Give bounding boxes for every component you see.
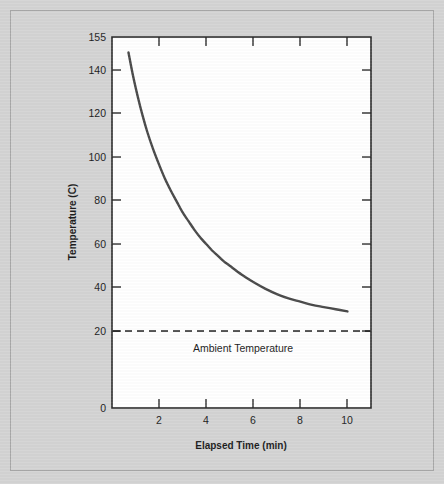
y-tick-label-80: 80 xyxy=(94,194,106,206)
y-tick-label-120: 120 xyxy=(88,107,106,119)
y-tick-label-20: 20 xyxy=(94,325,106,337)
x-tick-label-10: 10 xyxy=(341,414,353,426)
y-tick-label-100: 100 xyxy=(88,151,106,163)
x-tick-label-2: 2 xyxy=(156,414,162,426)
x-tick-label-8: 8 xyxy=(297,414,303,426)
x-tick-label-4: 4 xyxy=(203,414,209,426)
y-tick-label-140: 140 xyxy=(88,64,106,76)
x-axis-title: Elapsed Time (min) xyxy=(195,440,287,451)
y-tick-label-155: 155 xyxy=(88,31,106,43)
y-axis-title: Temperature (C) xyxy=(67,184,78,261)
y-tick-label-40: 40 xyxy=(94,281,106,293)
cooling-curve-chart: 155 140 120 100 80 60 40 20 0 2 4 6 8 10… xyxy=(0,0,444,484)
y-tick-label-60: 60 xyxy=(94,238,106,250)
y-tick-label-0: 0 xyxy=(100,402,106,414)
figure-page: 155 140 120 100 80 60 40 20 0 2 4 6 8 10… xyxy=(0,0,444,484)
ambient-temperature-label: Ambient Temperature xyxy=(193,342,293,354)
x-tick-label-6: 6 xyxy=(250,414,256,426)
